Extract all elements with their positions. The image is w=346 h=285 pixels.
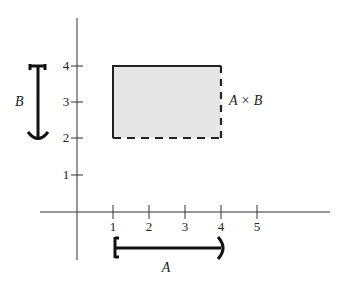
x-tick-label-2: 2 [146,219,153,234]
interval-b-label: B [15,94,24,109]
cartesian-diagram: 1 2 3 4 5 1 2 3 4 A × B B A [0,0,346,285]
region-label: A × B [228,93,263,108]
y-tick-label-3: 3 [63,94,70,109]
interval-a-label: A [161,260,171,275]
x-tick-label-5: 5 [254,219,261,234]
y-tick-label-4: 4 [63,58,70,73]
x-tick-label-1: 1 [110,219,117,234]
x-tick-label-4: 4 [218,219,225,234]
interval-a-bracket [115,237,223,259]
product-region [113,66,221,138]
interval-b-bracket [28,64,48,139]
y-tick-label-2: 2 [63,130,70,145]
y-tick-label-1: 1 [63,167,70,182]
x-tick-label-3: 3 [182,219,189,234]
